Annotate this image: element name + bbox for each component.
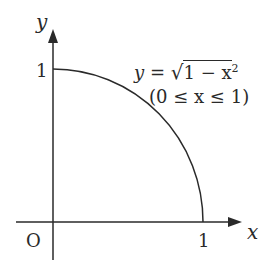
equation-lhs: y = <box>134 62 165 83</box>
y-tick-label: 1 <box>36 62 47 80</box>
curve-equation: y = √1 − x2 <box>134 62 239 82</box>
equation-exponent: 2 <box>232 62 239 75</box>
y-axis-arrow-icon <box>48 29 58 43</box>
curve-domain: (0 ≤ x ≤ 1) <box>149 88 249 106</box>
x-axis-label: x <box>247 222 258 242</box>
y-axis-label: y <box>36 12 47 32</box>
sqrt-icon: √ <box>171 60 184 84</box>
x-axis-arrow-icon <box>228 217 242 227</box>
origin-label: O <box>26 232 41 250</box>
x-tick-label: 1 <box>198 232 209 250</box>
equation-rhs: 1 − x <box>183 60 231 83</box>
graph-svg <box>0 0 272 279</box>
diagram-canvas: y 1 O 1 x y = √1 − x2 (0 ≤ x ≤ 1) <box>0 0 272 279</box>
